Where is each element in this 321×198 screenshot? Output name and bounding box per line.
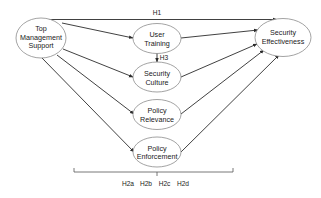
node-label: Culture bbox=[145, 78, 168, 87]
node-policy-enforcement: Policy Enforcement bbox=[133, 137, 181, 167]
edge-tms-to-ut bbox=[62, 23, 133, 38]
node-label: Relevance bbox=[140, 115, 174, 124]
edge-ut-to-se bbox=[181, 30, 258, 38]
h2c-label: H2c bbox=[159, 180, 171, 187]
node-security-effectiveness: Security Effectiveness bbox=[255, 19, 311, 57]
node-label: Effectiveness bbox=[262, 37, 305, 46]
node-security-culture: Security Culture bbox=[133, 62, 181, 92]
h3-label: H3 bbox=[160, 54, 169, 61]
edge-pe-to-se bbox=[181, 55, 279, 152]
h2b-label: H2b bbox=[140, 180, 152, 187]
node-top-management-support: Top Management Support bbox=[16, 18, 66, 58]
node-label: Training bbox=[144, 39, 170, 48]
edge-tms-to-sc bbox=[63, 49, 133, 77]
h1-label: H1 bbox=[153, 9, 162, 16]
node-user-training: User Training bbox=[133, 24, 181, 54]
research-model-diagram: H1 H3 Top Management Support User Traini… bbox=[0, 0, 321, 198]
edge-sc-to-se bbox=[181, 44, 257, 77]
h2d-label: H2d bbox=[177, 180, 189, 187]
node-policy-relevance: Policy Relevance bbox=[133, 100, 181, 130]
node-label: Support bbox=[28, 41, 53, 50]
h2a-label: H2a bbox=[122, 180, 134, 187]
node-label: Enforcement bbox=[137, 152, 178, 161]
h2-bracket bbox=[74, 168, 233, 176]
